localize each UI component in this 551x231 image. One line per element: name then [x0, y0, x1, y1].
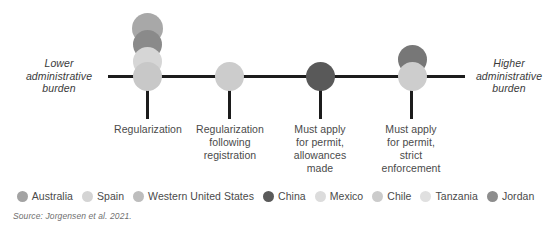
- axis-end-label-higher-line3: burden: [467, 82, 551, 95]
- legend-item-jordan[interactable]: Jordan: [487, 190, 534, 202]
- legend-swatch-icon-australia: [17, 191, 28, 202]
- axis-end-label-lower: Lower administrative burden: [14, 57, 104, 95]
- axis-end-label-lower-line1: Lower: [14, 57, 104, 70]
- legend-label-western-united-states: Western United States: [148, 190, 254, 202]
- legend-item-spain[interactable]: Spain: [82, 190, 124, 202]
- data-point-regularization-spain: [133, 62, 162, 91]
- legend-item-tanzania[interactable]: Tanzania: [420, 190, 477, 202]
- legend-item-western-united-states[interactable]: Western United States: [133, 190, 254, 202]
- category-label-2-line3: allowances: [272, 149, 368, 162]
- category-label-2: Must apply for permit, allowances made: [272, 123, 368, 175]
- category-label-1-line2: following: [175, 136, 285, 149]
- category-label-3: Must apply for permit, strict enforcemen…: [362, 123, 460, 175]
- legend-label-chile: Chile: [387, 190, 411, 202]
- legend-swatch-icon-chile: [372, 191, 383, 202]
- legend-item-australia[interactable]: Australia: [17, 190, 73, 202]
- axis-end-label-lower-line2: administrative: [14, 70, 104, 83]
- legend-label-australia: Australia: [32, 190, 73, 202]
- legend-swatch-icon-spain: [82, 191, 93, 202]
- data-point-regularization-following-registration-western-united-states: [215, 62, 244, 91]
- category-label-3-line1: Must apply: [362, 123, 460, 136]
- administrative-burden-figure: Lower administrative burden Higher admin…: [0, 0, 551, 231]
- legend-swatch-icon-western-united-states: [133, 191, 144, 202]
- axis-area: Lower administrative burden Higher admin…: [0, 0, 551, 182]
- axis-end-label-higher: Higher administrative burden: [467, 57, 551, 95]
- category-label-2-line4: made: [272, 162, 368, 175]
- legend-label-spain: Spain: [97, 190, 124, 202]
- data-point-permit-strict-chile: [398, 62, 427, 91]
- legend: Australia Spain Western United States Ch…: [0, 186, 551, 206]
- category-label-3-line4: enforcement: [362, 162, 460, 175]
- legend-swatch-icon-mexico: [315, 191, 326, 202]
- category-label-1-line1: Regularization: [175, 123, 285, 136]
- legend-item-mexico[interactable]: Mexico: [315, 190, 364, 202]
- category-label-1-line3: registration: [175, 149, 285, 162]
- legend-item-chile[interactable]: Chile: [372, 190, 411, 202]
- legend-swatch-icon-china: [263, 191, 274, 202]
- legend-label-china: China: [278, 190, 306, 202]
- legend-label-jordan: Jordan: [502, 190, 534, 202]
- legend-label-tanzania: Tanzania: [435, 190, 477, 202]
- axis-end-label-higher-line2: administrative: [467, 70, 551, 83]
- legend-label-mexico: Mexico: [330, 190, 364, 202]
- axis-end-label-lower-line3: burden: [14, 82, 104, 95]
- category-label-3-line3: strict: [362, 149, 460, 162]
- legend-swatch-icon-tanzania: [420, 191, 431, 202]
- category-label-2-line1: Must apply: [272, 123, 368, 136]
- category-label-3-line2: for permit,: [362, 136, 460, 149]
- source-note: Source: Jorgensen et al. 2021.: [13, 211, 132, 221]
- category-label-2-line2: for permit,: [272, 136, 368, 149]
- axis-end-label-higher-line1: Higher: [467, 57, 551, 70]
- legend-item-china[interactable]: China: [263, 190, 306, 202]
- legend-swatch-icon-jordan: [487, 191, 498, 202]
- category-label-1: Regularization following registration: [175, 123, 285, 162]
- data-point-permit-allowances-china: [306, 62, 335, 91]
